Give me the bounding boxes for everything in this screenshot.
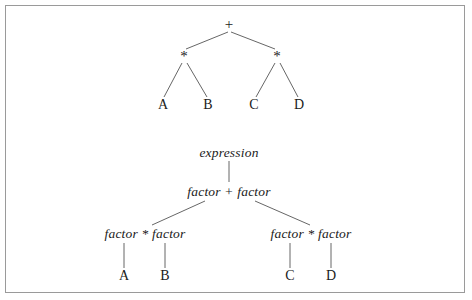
- parse-node-expression: expression: [199, 146, 258, 160]
- tree-edge: [186, 32, 228, 49]
- tree-edge: [255, 201, 310, 225]
- expr-leaf-a: A: [158, 98, 168, 112]
- expr-node-mul-right: *: [273, 49, 281, 64]
- figure-content: + * * A B C D expression factor + factor…: [0, 0, 472, 300]
- parse-leaf-c: C: [285, 269, 294, 283]
- tree-edge: [231, 32, 275, 49]
- expr-leaf-b: B: [203, 98, 212, 112]
- parse-leaf-d: D: [326, 269, 336, 283]
- parse-node-sum: factor + factor: [187, 185, 270, 199]
- expr-leaf-d: D: [294, 98, 304, 112]
- tree-edge: [164, 63, 182, 97]
- tree-edge: [152, 201, 205, 225]
- expr-node-root: +: [225, 17, 233, 32]
- expression-tree-edges: [164, 32, 298, 97]
- parse-tree-edges: [124, 161, 331, 268]
- parse-node-product-right: factor * factor: [271, 227, 352, 241]
- parse-leaf-b: B: [160, 269, 169, 283]
- tree-edge: [256, 63, 275, 97]
- expr-node-mul-left: *: [180, 49, 188, 64]
- parse-leaf-a: A: [119, 269, 129, 283]
- tree-edge: [280, 63, 298, 97]
- figure-page: + * * A B C D expression factor + factor…: [0, 0, 472, 300]
- parse-node-product-left: factor * factor: [105, 227, 186, 241]
- tree-edge: [187, 63, 207, 97]
- expr-leaf-c: C: [249, 98, 258, 112]
